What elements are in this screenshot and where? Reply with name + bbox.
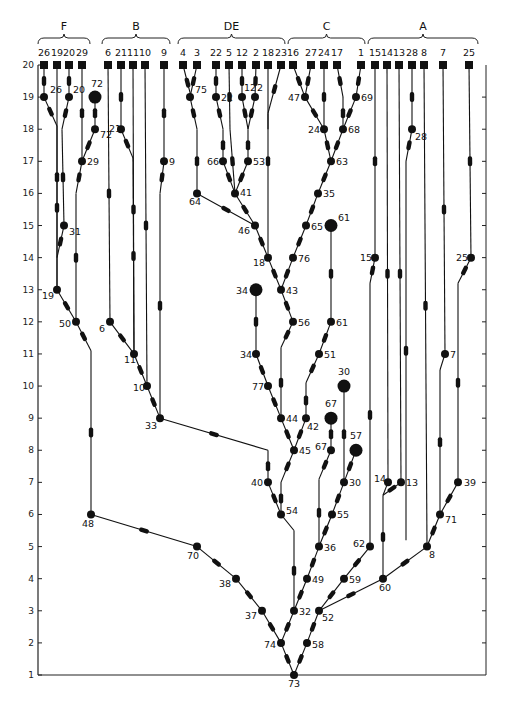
node-circle — [212, 93, 220, 101]
tip-square — [383, 61, 391, 69]
tip-square — [439, 61, 447, 69]
node-label: 30 — [338, 366, 350, 377]
axis-tick-label: 20 — [23, 60, 35, 70]
tip-label: 10 — [139, 47, 151, 58]
node-circle — [314, 189, 322, 197]
node-circle — [277, 414, 285, 422]
axis-tick-label: 8 — [28, 445, 34, 455]
node-circle — [303, 575, 311, 583]
tip-label: 1 — [358, 47, 364, 58]
node-circle — [320, 125, 328, 133]
branch-change-marker — [74, 253, 78, 263]
axis-tick-label: 3 — [28, 606, 34, 616]
tip-label: 29 — [76, 47, 88, 58]
node-label: 60 — [379, 582, 391, 593]
branch-change-marker — [438, 437, 442, 447]
node-label: 72 — [91, 78, 103, 89]
branch-change-marker — [258, 236, 266, 247]
node-circle — [264, 254, 272, 262]
node-circle — [186, 93, 194, 101]
node-circle — [366, 543, 374, 551]
node-circle — [72, 318, 80, 326]
branch-change-marker — [117, 333, 127, 344]
branch-change-marker — [333, 140, 341, 151]
branch-change-marker — [321, 172, 329, 183]
branch-change-marker — [308, 204, 316, 215]
node-circle — [78, 157, 86, 165]
tip-square — [408, 61, 416, 69]
axis-tick-label: 9 — [28, 413, 34, 423]
branch-change-marker — [62, 108, 68, 119]
node-circle — [289, 318, 297, 326]
node-label: 29 — [87, 156, 99, 167]
branch-change-marker — [89, 428, 93, 438]
tip-label: 20 — [63, 47, 75, 58]
node-label: 19 — [42, 290, 54, 301]
node-label: 54 — [286, 505, 298, 516]
node-label: 24 — [308, 124, 320, 135]
branch-change-marker — [329, 429, 333, 439]
node-circle — [339, 125, 347, 133]
node-circle — [454, 478, 462, 486]
node-label: 48 — [82, 518, 94, 529]
node-circle — [277, 510, 285, 518]
node-label: 7 — [450, 349, 456, 360]
tip-square — [320, 61, 328, 69]
node-circle — [327, 446, 335, 454]
node-circle — [397, 478, 405, 486]
branch-change-marker — [322, 525, 330, 536]
branch-change-marker — [337, 76, 343, 87]
axis-tick-label: 2 — [28, 638, 34, 648]
branch-change-marker — [406, 140, 412, 151]
branch-change-marker — [329, 269, 333, 279]
group-label: C — [323, 20, 331, 33]
tip-label: 15 — [369, 47, 381, 58]
group-brace — [288, 34, 365, 44]
tip-square — [104, 61, 112, 69]
branch-change-marker — [456, 378, 460, 388]
tip-square — [225, 61, 233, 69]
node-label: 67 — [315, 441, 327, 452]
node-circle — [251, 93, 259, 101]
node-label: 31 — [69, 226, 81, 237]
axis-tick-label: 18 — [23, 124, 35, 134]
branch-change-marker — [304, 396, 308, 406]
node-label: 45 — [299, 445, 311, 456]
node-label: 46 — [238, 225, 250, 236]
node-circle — [232, 575, 240, 583]
branch-change-marker — [279, 378, 283, 388]
tip-square — [395, 61, 403, 69]
branch-change-marker — [76, 172, 82, 183]
branch-change-marker — [468, 156, 473, 166]
node-circle — [156, 414, 164, 422]
branch-change-marker — [295, 76, 303, 87]
branch-change-marker — [131, 251, 135, 261]
tip-label: 27 — [305, 47, 317, 58]
node-label: 42 — [307, 421, 319, 432]
branch-change-marker — [342, 429, 346, 439]
node-circle — [160, 157, 168, 165]
node-label: 66 — [207, 156, 219, 167]
node-label: 11 — [124, 354, 136, 365]
branch-change-marker — [292, 566, 296, 576]
branch-change-marker — [322, 92, 326, 102]
axis-tick-label: 15 — [23, 221, 34, 231]
branch-change-marker — [107, 188, 111, 198]
node-label: 37 — [245, 610, 257, 621]
large-node-circle — [338, 380, 351, 393]
node-label: 67 — [325, 398, 337, 409]
node-label: 63 — [336, 156, 348, 167]
branch-change-marker — [144, 221, 148, 231]
axis-tick-label: 4 — [28, 574, 34, 584]
tip-label: 9 — [161, 47, 167, 58]
branch-change-marker — [159, 172, 165, 182]
branch-change-marker — [321, 459, 329, 470]
node-label: 44 — [286, 413, 298, 424]
tip-label: 25 — [463, 47, 475, 58]
node-label: 57 — [350, 430, 362, 441]
branch-change-marker — [162, 108, 166, 118]
node-label: 10 — [133, 382, 145, 393]
branch-change-marker — [62, 300, 71, 311]
tip-label: 23 — [275, 47, 287, 58]
branch-change-marker — [310, 108, 319, 119]
